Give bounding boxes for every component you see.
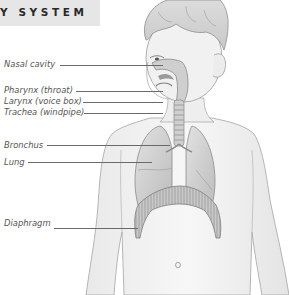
leader-line-larynx bbox=[83, 102, 163, 103]
leader-line-trachea bbox=[84, 113, 163, 114]
label-larynx: Larynx (voice box) bbox=[4, 96, 82, 106]
label-trachea: Trachea (windpipe) bbox=[4, 107, 84, 117]
leader-line-pharynx bbox=[76, 91, 163, 92]
respiratory-system-illustration bbox=[0, 0, 289, 295]
leader-line-lung bbox=[28, 162, 152, 163]
trachea bbox=[174, 100, 184, 146]
leader-line-bronchus bbox=[47, 145, 170, 146]
label-diaphragm: Diaphragm bbox=[4, 218, 51, 228]
leader-line-diaphragm bbox=[54, 228, 138, 229]
label-lung: Lung bbox=[4, 157, 25, 167]
leader-line-nasal-cavity bbox=[60, 65, 163, 66]
label-nasal-cavity: Nasal cavity bbox=[4, 59, 55, 69]
label-bronchus: Bronchus bbox=[4, 140, 43, 150]
label-pharynx: Pharynx (throat) bbox=[4, 85, 73, 95]
